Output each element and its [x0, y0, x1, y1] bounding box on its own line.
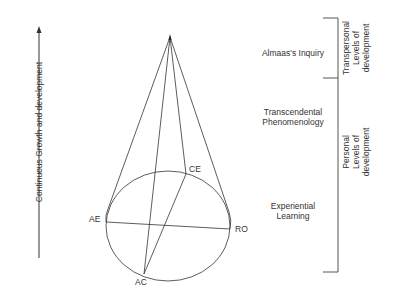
transpersonal-line2: Levels of — [351, 18, 361, 78]
cone-lines — [106, 37, 231, 274]
stage-label-experiential: Experiential Learning — [258, 201, 328, 221]
point-label-ce: CE — [189, 164, 201, 174]
stage-experiential-line2: Learning — [258, 211, 328, 221]
personal-line3: development — [361, 122, 371, 182]
stage-experiential-line1: Experiential — [258, 201, 328, 211]
personal-levels-label: Personal Levels of development — [341, 122, 371, 182]
stage-transcendental-line2: Phenomenology — [258, 117, 328, 127]
stage-label-transcendental: Transcendental Phenomenology — [258, 107, 328, 127]
stage-almaas-text: Almaas's Inquiry — [262, 48, 324, 58]
transpersonal-line1: Transpersonal — [341, 18, 351, 78]
diagram-canvas — [0, 0, 395, 296]
transpersonal-line3: development — [361, 18, 371, 78]
axis-label: Continuous Growth and development — [34, 54, 44, 210]
personal-line1: Personal — [341, 122, 351, 182]
transpersonal-levels-label: Transpersonal Levels of development — [341, 18, 371, 78]
cone-apex — [169, 34, 172, 40]
stage-transcendental-line1: Transcendental — [258, 107, 328, 117]
point-label-ac: AC — [135, 277, 147, 287]
point-label-ae: AE — [89, 214, 100, 224]
stage-label-almaas: Almaas's Inquiry — [258, 48, 328, 58]
learning-cycle-ellipse — [106, 171, 230, 281]
point-label-ro: RO — [235, 224, 248, 234]
personal-line2: Levels of — [351, 122, 361, 182]
cycle-axes — [106, 174, 230, 274]
